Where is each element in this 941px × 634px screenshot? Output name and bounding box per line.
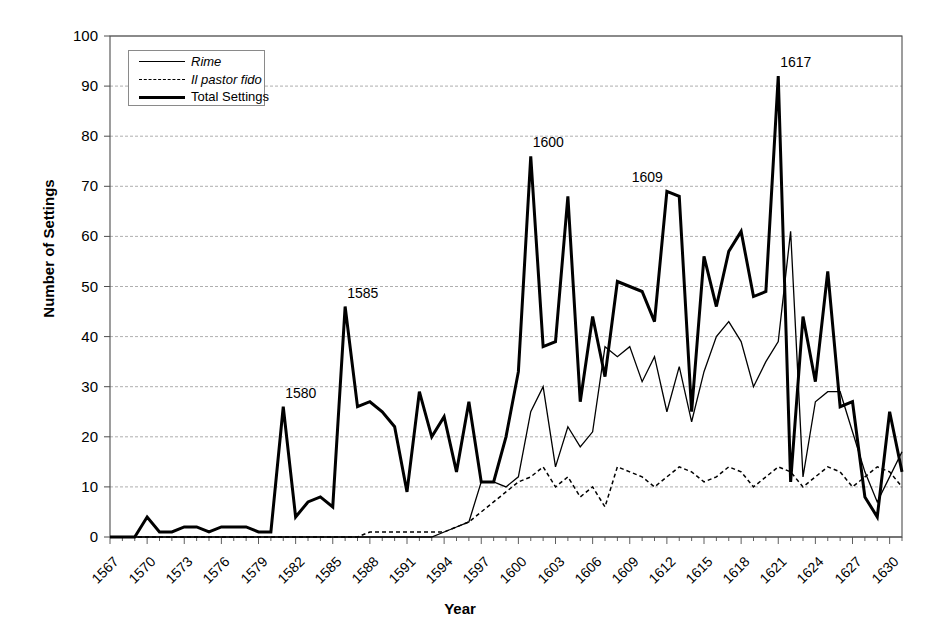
series-line-total-settings [110, 76, 902, 537]
legend-swatch-total-settings [139, 96, 185, 99]
y-tick-label: 30 [58, 379, 98, 394]
peak-annotation: 1617 [780, 54, 811, 70]
peak-annotation: 1585 [347, 285, 378, 301]
chart-container: Number of Settings Year 0102030405060708… [0, 0, 941, 634]
legend-swatch-rime [139, 61, 185, 62]
y-tick-label: 70 [58, 178, 98, 193]
y-tick-label: 40 [58, 329, 98, 344]
y-tick-label: 100 [58, 28, 98, 43]
x-axis-title: Year [380, 600, 540, 617]
legend: Rime Il pastor fido Total Settings [128, 50, 265, 106]
legend-label-total-settings: Total Settings [191, 89, 269, 105]
y-tick-label: 60 [58, 228, 98, 243]
peak-annotation: 1580 [285, 385, 316, 401]
legend-label-il-pastor-fido: Il pastor fido [191, 72, 262, 88]
legend-item-il-pastor-fido: Il pastor fido [129, 71, 264, 89]
legend-item-rime: Rime [129, 53, 264, 71]
y-tick-label: 90 [58, 78, 98, 93]
y-tick-label: 80 [58, 128, 98, 143]
legend-item-total-settings: Total Settings [129, 88, 264, 106]
legend-swatch-il-pastor-fido [139, 79, 185, 80]
y-tick-label: 10 [58, 479, 98, 494]
peak-annotation: 1600 [533, 134, 564, 150]
y-tick-label: 0 [58, 529, 98, 544]
y-tick-label: 20 [58, 429, 98, 444]
y-axis-title: Number of Settings [40, 149, 57, 349]
legend-label-rime: Rime [191, 54, 221, 70]
peak-annotation: 1609 [632, 169, 663, 185]
y-tick-label: 50 [58, 279, 98, 294]
